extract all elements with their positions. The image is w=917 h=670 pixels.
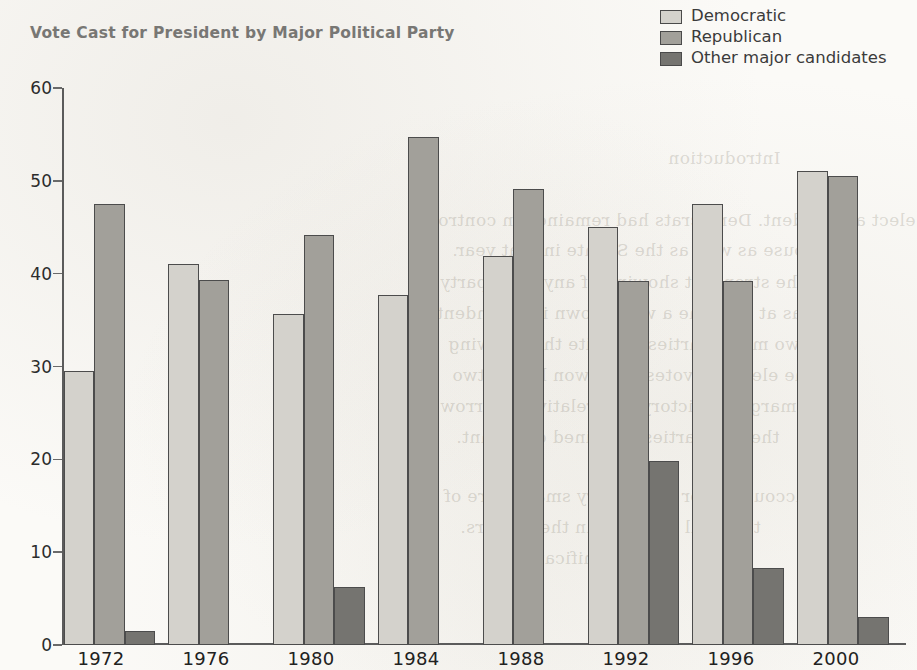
y-axis-tick-label: 50 xyxy=(30,171,52,191)
bar-1988-republican xyxy=(513,189,544,645)
bar-1980-other-major-candidates xyxy=(334,587,365,645)
page-title: Vote Cast for President by Major Politic… xyxy=(30,24,455,42)
legend-item-1: Republican xyxy=(660,27,887,48)
x-axis-label-cell: 1992 xyxy=(589,648,694,669)
legend-item-label: Republican xyxy=(691,29,782,46)
bar-1984-republican xyxy=(408,137,439,645)
y-axis-tick-label: 60 xyxy=(30,78,52,98)
x-axis-label-cell: 1984 xyxy=(379,648,484,669)
x-axis-label-cell: 2000 xyxy=(799,648,904,669)
y-axis-tick-label: 40 xyxy=(30,264,52,284)
bar-1984-democratic xyxy=(378,295,409,645)
bar-group-1988 xyxy=(483,88,588,645)
y-axis-tick xyxy=(53,366,62,367)
bar-2000-democratic xyxy=(797,171,828,645)
bar-1988-democratic xyxy=(483,256,514,645)
bar-1976-democratic xyxy=(168,264,199,645)
x-axis-tick-label: 1984 xyxy=(393,648,440,669)
bar-1980-democratic xyxy=(273,314,304,645)
y-axis-tick xyxy=(53,551,62,552)
bar-group-1996 xyxy=(692,88,797,645)
bar-1996-other-major-candidates xyxy=(753,568,784,645)
bar-1972-other-major-candidates xyxy=(125,631,156,645)
bar-1996-republican xyxy=(723,281,754,645)
legend-item-2: Other major candidates xyxy=(660,48,887,69)
legend-swatch-icon xyxy=(660,52,682,66)
bar-group-1980 xyxy=(273,88,378,645)
x-axis-tick-label: 1992 xyxy=(603,648,650,669)
legend-swatch-icon xyxy=(660,10,682,24)
y-axis-tick xyxy=(53,644,62,645)
x-axis-label-cell: 1972 xyxy=(64,648,169,669)
x-axis-label-cell: 1980 xyxy=(274,648,379,669)
x-axis-label-cell: 1976 xyxy=(169,648,274,669)
bar-group-2000 xyxy=(797,88,902,645)
legend-swatch-icon xyxy=(660,31,682,45)
bar-1992-republican xyxy=(618,281,649,645)
bar-1992-other-major-candidates xyxy=(649,461,680,645)
bar-group-1976 xyxy=(168,88,273,645)
bar-1992-democratic xyxy=(588,227,619,645)
y-axis-tick xyxy=(53,273,62,274)
bar-groups xyxy=(64,88,902,645)
legend-item-0: Democratic xyxy=(660,6,887,27)
y-axis-tick-label: 20 xyxy=(30,449,52,469)
bar-group-1972 xyxy=(64,88,169,645)
x-axis-label-cell: 1996 xyxy=(694,648,799,669)
y-axis-tick xyxy=(53,87,62,88)
bar-1972-democratic xyxy=(64,371,95,645)
legend-item-label: Democratic xyxy=(691,8,786,25)
bar-2000-republican xyxy=(828,176,859,645)
bar-1996-democratic xyxy=(692,204,723,645)
y-axis-tick-label: 10 xyxy=(30,542,52,562)
y-axis-tick xyxy=(53,180,62,181)
x-axis-tick-label: 1972 xyxy=(78,648,125,669)
bar-1972-republican xyxy=(94,204,125,645)
x-axis-tick-label: 1988 xyxy=(498,648,545,669)
plot-area xyxy=(62,88,902,645)
x-axis-tick-label: 1976 xyxy=(183,648,230,669)
legend-item-label: Other major candidates xyxy=(691,50,887,67)
y-axis-tick-label: 30 xyxy=(30,357,52,377)
x-axis-labels: 19721976198019841988199219962000 xyxy=(64,648,904,669)
x-axis-label-cell: 1988 xyxy=(484,648,589,669)
bar-1976-republican xyxy=(199,280,230,645)
y-axis-labels: 0102030405060 xyxy=(10,88,52,645)
y-axis-tick-label: 0 xyxy=(41,635,52,655)
x-axis-tick-label: 2000 xyxy=(813,648,860,669)
bar-2000-other-major-candidates xyxy=(858,617,889,645)
x-axis-tick-label: 1980 xyxy=(288,648,335,669)
bar-group-1984 xyxy=(378,88,483,645)
y-axis-tick xyxy=(53,459,62,460)
chart-legend: DemocraticRepublicanOther major candidat… xyxy=(660,6,887,69)
bar-1980-republican xyxy=(304,235,335,645)
bar-group-1992 xyxy=(588,88,693,645)
x-axis-tick-label: 1996 xyxy=(708,648,755,669)
